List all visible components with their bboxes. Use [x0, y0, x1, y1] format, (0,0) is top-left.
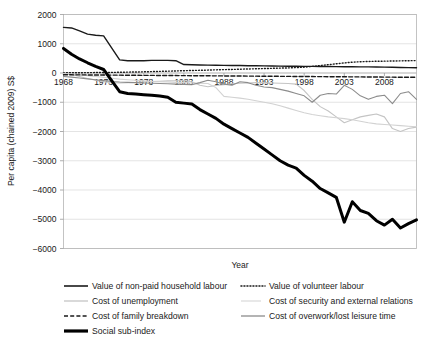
legend-label: Social sub-index: [92, 326, 155, 336]
series-line-2: [64, 74, 417, 132]
y-axis-tick-labels: 200010000−1000−2000−3000−4000−5000−6000: [33, 10, 64, 254]
legend-item: Social sub-index: [63, 323, 227, 338]
y-tick-label: −4000: [33, 185, 57, 195]
y-tick-label: 1000: [38, 39, 57, 49]
legend-key-solid-thick-black-icon: [63, 326, 89, 336]
legend-label: Value of non-paid household labour: [92, 281, 227, 291]
y-tick-label: 2000: [38, 10, 57, 20]
y-tick-label: −1000: [33, 97, 57, 107]
legend-item: Cost of overwork/lost leisure time: [240, 308, 413, 323]
y-tick-label: −3000: [33, 156, 57, 166]
chart-legend: Value of non-paid household labour Cost …: [0, 278, 430, 342]
legend-label: Value of volunteer labour: [269, 281, 364, 291]
legend-item: Cost of security and external relations: [240, 293, 413, 308]
chart-figure: 200010000−1000−2000−3000−4000−5000−6000 …: [0, 0, 430, 342]
legend-label: Cost of unemployment: [92, 296, 178, 306]
y-tick-label: −2000: [33, 127, 57, 137]
legend-label: Cost of security and external relations: [269, 296, 413, 306]
x-tick-label: 2008: [375, 77, 394, 87]
legend-key-solid-lighter-grey-icon: [240, 296, 266, 306]
legend-item: Value of volunteer labour: [240, 278, 413, 293]
legend-key-solid-thin-black-icon: [63, 281, 89, 291]
legend-item: Value of non-paid household labour: [63, 278, 227, 293]
y-tick-label: −5000: [33, 214, 57, 224]
y-axis-title: Per capita (chained 2009) S$: [6, 76, 16, 186]
x-axis-title: Year: [231, 260, 248, 270]
legend-item: Cost of unemployment: [63, 293, 227, 308]
series-line-4: [64, 75, 417, 78]
series-line-5: [64, 77, 417, 104]
legend-key-solid-light-grey-icon: [63, 296, 89, 306]
legend-key-dotted-black-icon: [240, 281, 266, 291]
legend-column-right: Value of volunteer labour Cost of securi…: [240, 278, 413, 323]
legend-key-solid-mid-grey-icon: [240, 311, 266, 321]
x-tick-label: 1968: [54, 77, 73, 87]
legend-item: Cost of family breakdown: [63, 308, 227, 323]
legend-label: Cost of overwork/lost leisure time: [269, 311, 396, 321]
legend-column-left: Value of non-paid household labour Cost …: [63, 278, 227, 338]
legend-key-dashed-black-icon: [63, 311, 89, 321]
legend-label: Cost of family breakdown: [92, 311, 188, 321]
y-tick-label: −6000: [33, 244, 57, 254]
data-series-group: [64, 27, 417, 228]
